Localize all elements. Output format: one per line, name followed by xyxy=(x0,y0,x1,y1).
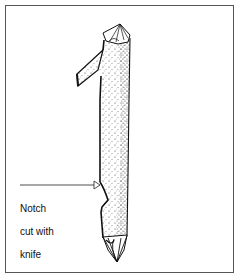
notch-pointer-arrow xyxy=(20,181,100,189)
stick-top-cut xyxy=(103,24,130,44)
annotation-line-2: cut with xyxy=(20,226,54,238)
stick-body xyxy=(98,25,130,255)
annotation-line-3: knife xyxy=(20,249,54,261)
annotation-line-1: Notch xyxy=(20,203,54,215)
notch-annotation: Notch cut with knife xyxy=(20,191,54,272)
stick-bottom-point xyxy=(103,235,127,262)
